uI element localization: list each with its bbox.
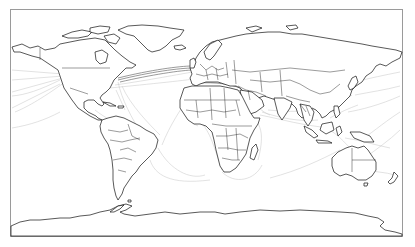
tasmania [364,183,368,186]
world-map [0,0,415,247]
falklands [128,200,131,202]
hispaniola [118,106,124,108]
